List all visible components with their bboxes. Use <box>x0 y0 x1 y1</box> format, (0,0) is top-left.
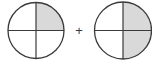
left-circle <box>8 3 64 59</box>
fraction-diagram: + <box>0 0 152 69</box>
plus-sign: + <box>75 23 83 38</box>
right-circle <box>95 2 152 59</box>
